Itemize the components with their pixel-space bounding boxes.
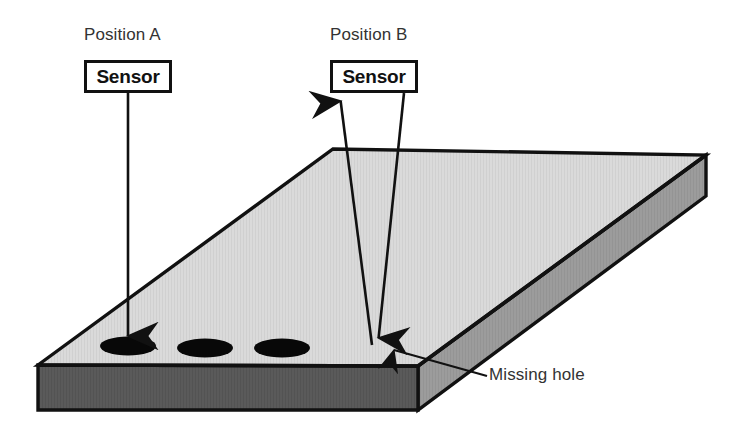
- sensor-box-a-label: Sensor: [96, 67, 159, 86]
- hole-1: [100, 337, 156, 356]
- plate-front-face: [38, 365, 418, 410]
- sensor-box-position-b[interactable]: Sensor: [330, 60, 418, 93]
- hole-3: [254, 339, 310, 358]
- missing-hole-label: Missing hole: [489, 365, 585, 385]
- position-b-label: Position B: [330, 25, 408, 45]
- plate-solid: [38, 149, 706, 410]
- plate-front-top-edge: [38, 365, 418, 366]
- hole-2: [177, 339, 233, 358]
- hole-group: [100, 337, 310, 358]
- sensor-box-b-label: Sensor: [342, 67, 405, 86]
- sensor-box-position-a[interactable]: Sensor: [84, 60, 172, 93]
- diagram-canvas: Position A Sensor Position B Sensor Miss…: [0, 0, 742, 431]
- position-a-label: Position A: [84, 25, 161, 45]
